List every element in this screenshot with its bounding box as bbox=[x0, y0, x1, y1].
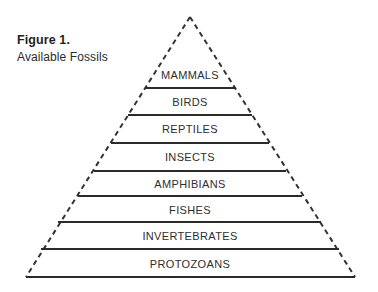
fossil-pyramid-diagram: MAMMALS BIRDS REPTILES INSECTS AMPHIBIAN… bbox=[0, 0, 378, 292]
tier-label-amphibians: AMPHIBIANS bbox=[154, 178, 225, 190]
tier-label-protozoans: PROTOZOANS bbox=[150, 258, 230, 270]
tier-label-reptiles: REPTILES bbox=[162, 123, 218, 135]
tier-label-insects: INSECTS bbox=[165, 151, 215, 163]
tier-label-invertebrates: INVERTEBRATES bbox=[142, 230, 237, 242]
figure-container: Figure 1. Available Fossils MAMMALS BIRD… bbox=[0, 0, 378, 292]
tier-label-mammals: MAMMALS bbox=[161, 69, 219, 81]
tier-label-fishes: FISHES bbox=[169, 204, 211, 216]
tier-label-birds: BIRDS bbox=[172, 96, 207, 108]
